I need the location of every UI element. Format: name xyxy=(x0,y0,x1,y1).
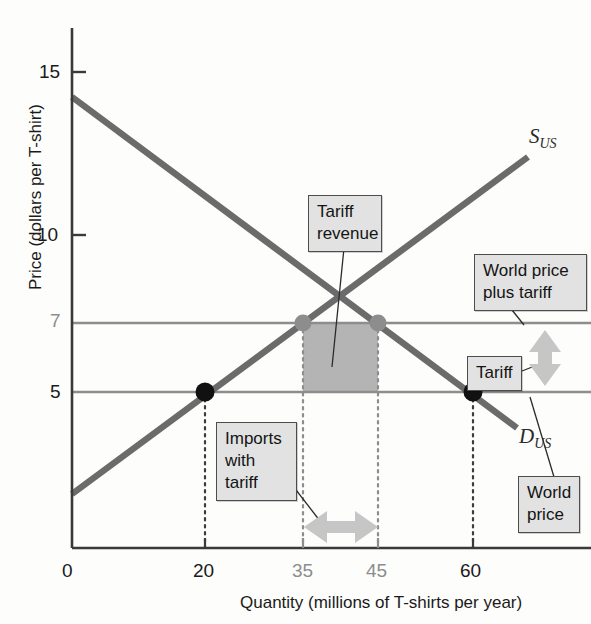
demand-curve-dus xyxy=(72,97,517,428)
imports-with-tariff-callout: Imports with tariff xyxy=(216,422,297,501)
tariff-callout: Tariff xyxy=(467,356,522,391)
tariff-supply-demand-figure: Price (dollars per T-shirt) Quantity (mi… xyxy=(0,0,591,624)
tariff-revenue-rectangle xyxy=(303,323,378,393)
chart-canvas xyxy=(0,0,591,624)
supply-curve-label: SUS xyxy=(529,124,557,152)
world-price-plus-tariff-callout: World price plus tariff xyxy=(474,254,587,311)
x-tick-label-60: 60 xyxy=(460,560,481,582)
tariff-supply-point-marker xyxy=(295,315,312,332)
y-tick-label-5: 5 xyxy=(50,381,61,403)
tariff-vertical-arrow xyxy=(529,330,561,386)
y-tick-label-7: 7 xyxy=(50,310,61,332)
x-tick-label-0: 0 xyxy=(62,560,73,582)
supply-curve-letter: S xyxy=(529,124,540,148)
tariff-demand-point-marker xyxy=(370,315,387,332)
supply-curve-subscript: US xyxy=(540,136,557,151)
x-tick-label-20: 20 xyxy=(193,560,214,582)
y-axis-title: Price (dollars per T-shirt) xyxy=(26,104,46,290)
free-trade-supply-point-marker xyxy=(196,383,215,402)
x-tick-label-45: 45 xyxy=(366,560,387,582)
imports-horizontal-arrow xyxy=(304,511,378,543)
demand-curve-subscript: US xyxy=(534,436,551,451)
world-price-callout: World price xyxy=(518,476,580,533)
y-tick-label-15: 15 xyxy=(39,61,60,83)
demand-curve-letter: D xyxy=(519,424,534,448)
tariff-revenue-callout: Tariff revenue xyxy=(308,195,382,252)
x-tick-label-35: 35 xyxy=(292,560,313,582)
y-tick-label-10: 10 xyxy=(37,224,58,246)
x-axis-title: Quantity (millions of T-shirts per year) xyxy=(240,593,522,613)
demand-curve-label: DUS xyxy=(519,424,551,452)
